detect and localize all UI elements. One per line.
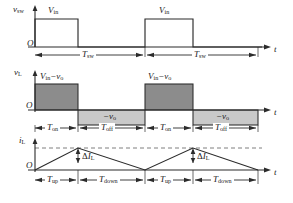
vl-negative-label-1: −vo <box>103 112 116 121</box>
il-ripple-label-1: ΔIL <box>82 152 95 161</box>
vl-interval-label-toff-1: Toff <box>99 123 115 132</box>
vl-interval-label-toff-2: Toff <box>213 123 229 132</box>
vl-origin-label: O <box>26 101 33 110</box>
vl-negative-label-2: −vo <box>216 112 229 121</box>
panel-vsw <box>28 5 271 57</box>
il-waveform <box>35 148 258 170</box>
il-ripple-label-2: ΔIL <box>197 152 210 161</box>
vsw-origin-label: O <box>27 39 34 48</box>
vl-y-arrow <box>33 70 38 76</box>
waveform-canvas <box>0 0 293 203</box>
vl-block-positive-1 <box>35 84 78 110</box>
il-ripple-arrow-2 <box>191 148 196 163</box>
vl-y-axis-label: vL <box>14 68 22 77</box>
vsw-amplitude-label-1: Vin <box>48 6 58 15</box>
vsw-waveform <box>35 19 262 47</box>
vl-interval-label-ton-1: Ton <box>45 123 60 132</box>
il-y-axis-label: iL <box>19 136 25 145</box>
panel-il <box>28 138 271 184</box>
vl-x-axis-label: t <box>274 108 277 117</box>
waveform-figure: vsw O Vin Vin Tsw Tsw t vL O Vin−vo Vin−… <box>0 0 293 203</box>
il-ripple-arrow-1 <box>76 148 81 163</box>
vsw-x-axis-label: t <box>274 45 277 54</box>
vsw-x-arrow <box>264 45 271 50</box>
vl-positive-label-1: Vin−vo <box>40 72 63 81</box>
vsw-period-label-2: Tsw <box>192 50 208 59</box>
il-x-axis-label: t <box>274 168 277 177</box>
vl-positive-label-2: Vin−vo <box>148 72 171 81</box>
vsw-period-label-1: Tsw <box>80 50 96 59</box>
vsw-amplitude-label-2: Vin <box>159 6 169 15</box>
il-interval-label-tup-1: Tup <box>45 175 60 184</box>
vsw-y-axis-label: vsw <box>13 5 24 14</box>
il-origin-label: O <box>26 161 33 170</box>
il-y-arrow <box>33 138 38 144</box>
vl-x-arrow <box>264 108 271 113</box>
il-interval-label-tup-2: Tup <box>158 175 173 184</box>
il-x-arrow <box>264 168 271 173</box>
il-interval-label-tdown-2: Tdown <box>211 175 234 184</box>
vl-block-positive-2 <box>145 84 193 110</box>
il-interval-label-tdown-1: Tdown <box>97 175 120 184</box>
vsw-y-arrow <box>33 5 38 11</box>
vl-interval-label-ton-2: Ton <box>158 123 173 132</box>
